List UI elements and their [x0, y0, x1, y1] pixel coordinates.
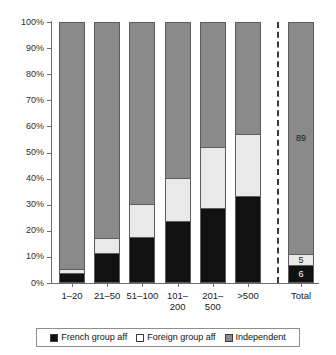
bar-201-500-segment-french[interactable]	[201, 209, 225, 282]
bar-bar-1-20[interactable]	[59, 22, 85, 283]
stacked-bar-chart: 100%90%80%70%60%50%40%30%20%10%0% 8956 1…	[0, 0, 336, 355]
bar-bar-101-200[interactable]	[165, 22, 191, 283]
bar-21-50-segment-independent[interactable]	[95, 23, 119, 238]
x-axis-label-line2: 500	[186, 301, 240, 312]
x-axis-tick-mark	[142, 283, 143, 287]
x-axis-tick-mark	[301, 283, 302, 287]
x-axis-label-bar-over-500: >500	[221, 290, 275, 301]
legend-swatch-icon	[136, 334, 144, 342]
bar-bar-over-500[interactable]	[235, 22, 261, 283]
bar-total-segment-foreign-value: 5	[289, 255, 313, 264]
legend-item-foreign-group-aff[interactable]: Foreign group aff	[136, 333, 215, 342]
x-axis-tick-mark	[213, 283, 214, 287]
legend-item-independent[interactable]: Independent	[225, 333, 286, 342]
bar-bar-201-500[interactable]	[200, 22, 226, 283]
y-axis-tick-label: 10%	[0, 252, 44, 261]
x-axis-tick-mark	[72, 283, 73, 287]
y-axis-tick-label: 90%	[0, 44, 44, 53]
x-axis-label-line1: Total	[274, 290, 328, 301]
y-axis-tick-label: 40%	[0, 174, 44, 183]
bar-21-50-segment-foreign[interactable]	[95, 238, 119, 254]
bar-total-segment-foreign[interactable]: 5	[289, 254, 313, 267]
y-axis-tick-label: 20%	[0, 226, 44, 235]
bar-bar-51-100[interactable]	[129, 22, 155, 283]
bar-201-500-segment-foreign[interactable]	[201, 147, 225, 209]
bar-21-50-segment-french[interactable]	[95, 254, 119, 282]
bar-1-20-segment-french[interactable]	[60, 274, 84, 282]
bar-total-segment-french[interactable]: 6	[289, 266, 313, 282]
bar-bar-21-50[interactable]	[94, 22, 120, 283]
y-axis-tick-label: 60%	[0, 122, 44, 131]
bar-101-200-segment-foreign[interactable]	[166, 178, 190, 222]
bar-over-500-segment-french[interactable]	[236, 197, 260, 282]
x-axis-tick-mark	[248, 283, 249, 287]
bar-total-segment-french-value: 6	[289, 270, 313, 279]
y-axis-tick-mark	[47, 283, 52, 284]
y-axis-tick-label: 50%	[0, 148, 44, 157]
bar-1-20-segment-independent[interactable]	[60, 23, 84, 269]
bar-bar-total[interactable]: 8956	[288, 22, 314, 283]
bar-51-100-segment-foreign[interactable]	[130, 204, 154, 238]
y-axis-tick-label: 30%	[0, 200, 44, 209]
legend-item-label: Independent	[236, 333, 286, 342]
legend-item-label: Foreign group aff	[147, 333, 215, 342]
legend-item-label: French group aff	[61, 333, 127, 342]
bar-201-500-segment-independent[interactable]	[201, 23, 225, 147]
y-axis-tick-label: 100%	[0, 18, 44, 27]
x-axis-tick-mark	[107, 283, 108, 287]
chart-legend: French group affForeign group affIndepen…	[36, 328, 300, 347]
legend-swatch-icon	[225, 334, 233, 342]
x-axis-label-bar-total: Total	[274, 290, 328, 301]
x-axis-line	[51, 283, 319, 284]
x-axis-tick-mark	[178, 283, 179, 287]
bar-101-200-segment-independent[interactable]	[166, 23, 190, 178]
bar-over-500-segment-independent[interactable]	[236, 23, 260, 134]
y-axis-tick-label: 80%	[0, 70, 44, 79]
bar-over-500-segment-foreign[interactable]	[236, 134, 260, 196]
bar-51-100-segment-independent[interactable]	[130, 23, 154, 204]
x-axis-label-line1: >500	[221, 290, 275, 301]
legend-swatch-icon	[50, 334, 58, 342]
bar-51-100-segment-french[interactable]	[130, 238, 154, 282]
bar-101-200-segment-french[interactable]	[166, 222, 190, 282]
bar-total-segment-independent[interactable]: 89	[289, 23, 313, 254]
bar-total-segment-independent-value: 89	[289, 134, 313, 143]
total-separator-dashed-line	[277, 22, 279, 283]
y-axis-tick-label: 70%	[0, 96, 44, 105]
y-axis-tick-label: 0%	[0, 279, 44, 288]
legend-item-french-group-aff[interactable]: French group aff	[50, 333, 127, 342]
